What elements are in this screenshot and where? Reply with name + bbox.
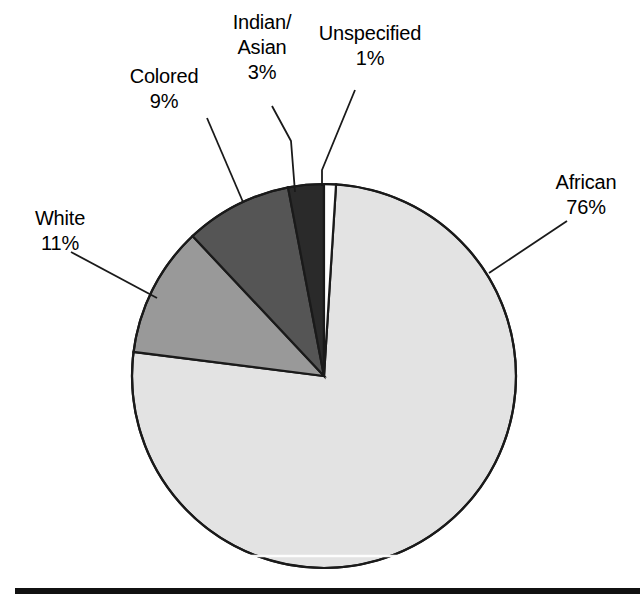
pie-chart-figure: Colored 9% Indian/ Asian 3% Unspecified … [0, 0, 642, 612]
pie-label-indian-asian: Indian/ Asian 3% [212, 10, 312, 85]
pie-label-indian-asian-percent: 3% [212, 60, 312, 85]
pie-label-white-name: White [8, 206, 112, 231]
pie-label-unspecified: Unspecified 1% [306, 21, 434, 71]
pie-label-indian-asian-name-line1: Indian/ [212, 10, 312, 35]
pie-label-african-percent: 76% [536, 195, 636, 220]
pie-label-white-percent: 11% [8, 231, 112, 256]
leader-line-unspecified [322, 90, 355, 186]
leader-line-african [489, 221, 567, 273]
leader-line-colored [207, 118, 243, 202]
pie-chart-graphic [0, 0, 642, 612]
pie-label-white: White 11% [8, 206, 112, 256]
pie-label-colored-name: Colored [108, 64, 220, 89]
pie-label-unspecified-name: Unspecified [306, 21, 434, 46]
pie-label-indian-asian-name-line2: Asian [212, 35, 312, 60]
leader-line-white [71, 252, 157, 298]
pie-label-african-name: African [536, 170, 636, 195]
leader-line-indian-asian [272, 106, 295, 192]
baseline-rule [15, 588, 640, 594]
pie-label-african: African 76% [536, 170, 636, 220]
pie-label-colored: Colored 9% [108, 64, 220, 114]
pie-label-unspecified-percent: 1% [306, 46, 434, 71]
pie-label-colored-percent: 9% [108, 89, 220, 114]
